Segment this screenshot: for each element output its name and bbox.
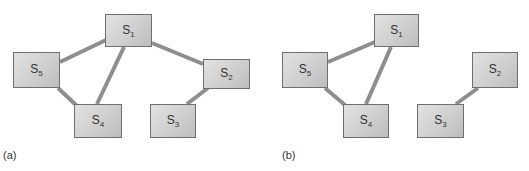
node-b-s5: S5 [282,52,328,88]
node-label: S3 [434,113,446,129]
panel-label-b: (b) [282,149,295,161]
node-label: S3 [167,113,179,129]
edge-a-s5-s4 [58,88,76,105]
edge-a-s1-s5 [60,40,106,62]
node-label: S2 [489,62,501,78]
node-b-s2: S2 [472,52,518,88]
node-label: S1 [122,23,134,39]
node-label: S5 [30,62,42,78]
node-b-s4: S4 [343,104,389,138]
node-a-s5: S5 [13,52,60,88]
node-a-s3: S3 [150,104,196,138]
node-label: S1 [390,23,402,39]
edge-b-s5-s4 [325,88,345,105]
edge-b-s1-s5 [328,42,375,62]
node-a-s2: S2 [203,59,250,89]
edge-a-s1-s4 [97,47,124,104]
edge-a-s2-s3 [187,88,208,104]
edge-a-s1-s2 [152,43,203,64]
node-label: S2 [220,66,232,82]
node-a-s1: S1 [105,14,152,47]
node-a-s4: S4 [74,104,122,138]
panel-label-a: (a) [3,149,16,161]
node-label: S4 [92,113,104,129]
edges-layer [0,0,529,171]
node-b-s1: S1 [374,14,419,47]
node-label: S4 [360,113,372,129]
node-label: S5 [299,62,311,78]
edge-b-s1-s4 [366,47,391,104]
node-b-s3: S3 [417,104,464,138]
edge-b-s2-s3 [456,88,478,104]
